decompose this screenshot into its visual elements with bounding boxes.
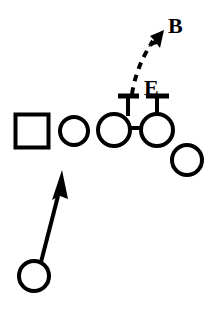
player-circle-tackle[interactable] [98,114,130,146]
football-play-diagram: B E [0,0,213,309]
backfield-group [19,261,49,291]
play-diagram-canvas: B E [0,0,213,309]
player-circle-guard[interactable] [60,117,88,145]
label-e: E [144,75,159,100]
player-square-center[interactable] [16,115,49,148]
player-circle-ballcarrier[interactable] [19,261,49,291]
player-circle-wing[interactable] [172,145,202,175]
label-b: B [168,13,183,38]
player-circle-tight-end[interactable] [141,114,173,146]
